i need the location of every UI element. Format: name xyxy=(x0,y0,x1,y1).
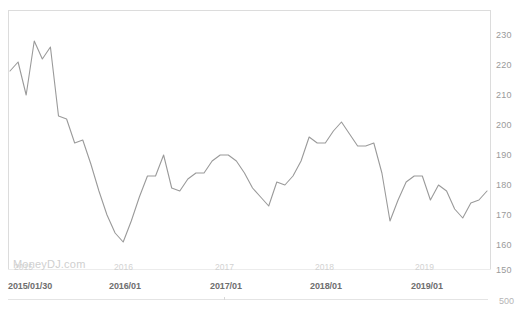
x-tick-label: 2015/01/30 xyxy=(8,281,52,291)
y-tick-label: 190 xyxy=(496,150,512,160)
x-tick-label: 2016/01 xyxy=(109,281,141,291)
footer-rule xyxy=(8,299,488,300)
footer-rule-tick xyxy=(224,297,225,300)
x-tick-label: 2019/01 xyxy=(411,281,443,291)
x-tick-year-label: 2017 xyxy=(215,262,234,272)
x-tick-year-label: 2016 xyxy=(114,262,133,272)
y-tick-label: 170 xyxy=(496,210,512,220)
secondary-axis-label: 500 xyxy=(499,296,514,306)
watermark-moneydj: MoneyDJ.com xyxy=(13,258,86,270)
y-tick-label: 230 xyxy=(496,30,512,40)
x-tick-year-label: 2018 xyxy=(315,262,334,272)
y-tick-label: 150 xyxy=(496,265,512,275)
y-tick-label: 200 xyxy=(496,120,512,130)
x-tick-year-label: 2019 xyxy=(415,262,434,272)
price-line-path xyxy=(10,41,487,242)
y-tick-label: 180 xyxy=(496,180,512,190)
x-tick-label: 2018/01 xyxy=(310,281,342,291)
y-tick-label: 220 xyxy=(496,60,512,70)
y-tick-label: 210 xyxy=(496,90,512,100)
x-tick-label: 2017/01 xyxy=(210,281,242,291)
y-tick-label: 160 xyxy=(496,240,512,250)
stock-price-chart: 230220210200190180170160150500 201520162… xyxy=(0,0,527,310)
